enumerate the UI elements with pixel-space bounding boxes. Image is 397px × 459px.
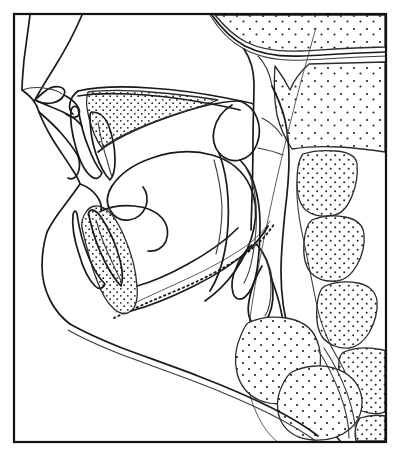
laryngeal-cartilage (278, 366, 362, 440)
orbital-nasal-lines (35, 100, 82, 179)
cervical-vertebra-c2 (304, 216, 364, 281)
mandibular-ramus-posterior (210, 153, 228, 291)
mandibular-body-ramus (131, 226, 268, 311)
cervical-vertebra-c5 (355, 415, 385, 441)
cervical-vertebra-c3 (317, 282, 377, 348)
cervical-vertebra-c1 (297, 151, 357, 216)
cephalometric-figure: Lateral cephalometric tracing Line drawi… (0, 0, 397, 459)
cephalometric-tracing-svg (0, 0, 397, 459)
occipital-cranial-base (215, 15, 385, 51)
sphenoid-basiocciput (274, 62, 385, 152)
